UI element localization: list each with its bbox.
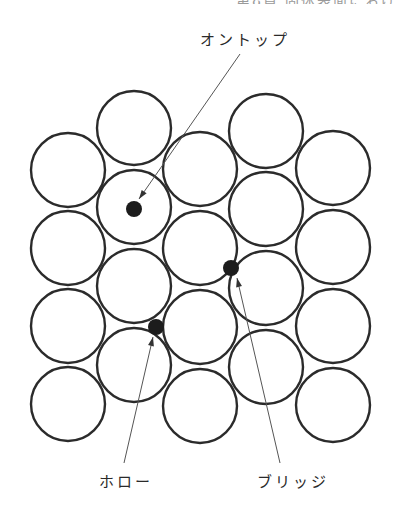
bridge-site-dot [223,260,239,276]
surface-atom [229,172,303,246]
hollow-label: ホロー [99,473,153,491]
close-packed-surface-svg [0,0,396,520]
surface-atom [97,249,171,323]
adsorption-site-diagram: 第8章 固体表面における オントップ ホロー ブリッジ [0,0,396,520]
surface-atom [31,289,105,363]
surface-atom [97,91,171,165]
surface-atom [296,210,370,284]
surface-atom [229,330,303,404]
surface-atom [296,368,370,442]
surface-atom [229,94,303,168]
surface-atom [296,289,370,363]
surface-atom [97,328,171,402]
surface-atom [31,133,105,207]
surface-atom [31,211,105,285]
ontop-site-dot [126,201,142,217]
surface-atom [163,132,237,206]
surface-atom [163,369,237,443]
bridge-label: ブリッジ [257,473,329,491]
surface-atom [163,290,237,364]
hollow-site-dot [148,319,164,335]
ontop-label: オントップ [200,31,290,49]
surface-atom [296,131,370,205]
surface-atoms [31,91,370,443]
surface-atom [31,367,105,441]
surface-atom [229,251,303,325]
